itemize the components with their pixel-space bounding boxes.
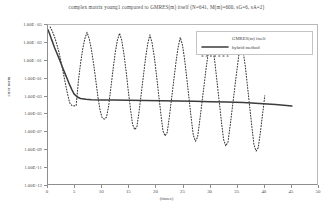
legend-item: hybrid method xyxy=(201,43,259,52)
y-axis-tick-label: 1.00E-07 xyxy=(24,129,42,134)
x-axis-tick-label: 45 xyxy=(288,189,293,194)
x-axis-tick-label: 40 xyxy=(261,189,266,194)
x-axis-title: (times) xyxy=(0,196,333,201)
legend-item: GMRES(m) itself xyxy=(201,34,265,43)
y-axis-tick-label: 1.00E+01 xyxy=(23,57,42,62)
legend-swatch-dotted xyxy=(201,45,229,51)
y-axis-tick-label: 1.00E-03 xyxy=(24,93,42,98)
x-axis-tick-label: 0 xyxy=(46,189,48,194)
y-axis-tick-label: 1.00E-11 xyxy=(24,165,42,170)
x-axis-tick-mark xyxy=(101,185,102,188)
x-axis-tick-mark xyxy=(210,185,211,188)
x-axis-tick-label: 15 xyxy=(126,189,131,194)
legend-label: hybrid method xyxy=(232,45,259,50)
x-axis-tick-label: 25 xyxy=(180,189,185,194)
x-axis-tick-mark xyxy=(183,185,184,188)
legend-label: GMRES(m) itself xyxy=(232,36,265,41)
legend-swatch-solid xyxy=(201,36,229,42)
y-axis-tick-label: 1.00E+05 xyxy=(23,22,42,27)
x-axis-tick-label: 35 xyxy=(234,189,239,194)
y-axis-tick-label: 1.00E-01 xyxy=(24,75,42,80)
y-axis-tick-label: 1.00E+03 xyxy=(23,39,42,44)
x-axis-tick-mark xyxy=(74,185,75,188)
chart-title: complex matrix young1 compared to GMRES(… xyxy=(0,4,333,10)
x-axis-tick-mark xyxy=(264,185,265,188)
x-axis-tick-mark xyxy=(318,185,319,188)
x-axis-tick-label: 5 xyxy=(73,189,75,194)
x-axis-tick-label: 20 xyxy=(153,189,158,194)
x-axis-tick-label: 10 xyxy=(99,189,104,194)
x-axis-tick-label: 50 xyxy=(316,189,321,194)
y-axis-tick-label: 1.00E-13 xyxy=(24,183,42,188)
y-axis-tick-label: 1.00E-05 xyxy=(24,111,42,116)
x-axis-tick-mark xyxy=(155,185,156,188)
chart-figure: complex matrix young1 compared to GMRES(… xyxy=(0,0,333,213)
y-axis-tick-label: 1.00E-09 xyxy=(24,147,42,152)
x-axis-tick-mark xyxy=(128,185,129,188)
x-axis-tick-label: 30 xyxy=(207,189,212,194)
x-axis-tick-mark xyxy=(47,185,48,188)
y-axis-tick-labels: 1.00E+051.00E+031.00E+011.00E-011.00E-03… xyxy=(0,24,45,185)
x-axis-tick-mark xyxy=(237,185,238,188)
chart-legend: GMRES(m) itselfhybrid method xyxy=(196,31,313,55)
x-axis-tick-mark xyxy=(291,185,292,188)
